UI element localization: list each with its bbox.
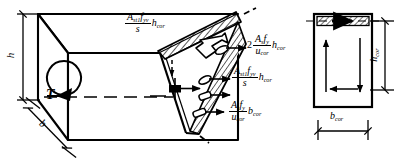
multiplier: bcor bbox=[247, 106, 261, 116]
multiplier: hcor bbox=[151, 18, 165, 28]
numerator: Asfy bbox=[253, 34, 271, 46]
numerator: Ast1fyv bbox=[232, 66, 258, 78]
fraction-side-stirrup: Ast1fyv s bbox=[232, 66, 258, 88]
denominator: ucor bbox=[253, 46, 271, 57]
dimension-label-h: h bbox=[5, 53, 16, 59]
force-label-bottom-longitudinal: Asfy ucor bcor bbox=[229, 100, 261, 122]
denominator: s bbox=[125, 24, 151, 35]
fraction-top-longitudinal: Asfy ucor bbox=[253, 34, 271, 56]
force-label-top-stirrup: Ast1fyv s hcor bbox=[125, 12, 165, 34]
dimension-label-b-cor: bcor bbox=[330, 111, 343, 121]
multiplier: hcor bbox=[271, 40, 285, 50]
torsion-symbol-label: T bbox=[46, 88, 55, 102]
fraction-bottom-longitudinal: Asfy ucor bbox=[229, 100, 247, 122]
diagram-artwork bbox=[0, 0, 403, 168]
fraction-top-stirrup: Ast1fyv s bbox=[125, 12, 151, 34]
force-label-side-stirrup: Ast1fyv s hcor bbox=[232, 66, 272, 88]
denominator: ucor bbox=[229, 112, 247, 123]
denominator: s bbox=[232, 78, 258, 89]
numerator: Ast1fyv bbox=[125, 12, 151, 24]
core-cross-section bbox=[306, 14, 394, 140]
figure-canvas: Ast1fyv s hcor 2 Asfy ucor hcor Ast1fyv … bbox=[0, 0, 403, 168]
multiplier: hcor bbox=[258, 72, 272, 82]
numerator: Asfy bbox=[229, 100, 247, 112]
dimension-label-h-cor: hcor bbox=[369, 48, 379, 61]
force-label-top-longitudinal: 2 Asfy ucor hcor bbox=[247, 34, 285, 56]
